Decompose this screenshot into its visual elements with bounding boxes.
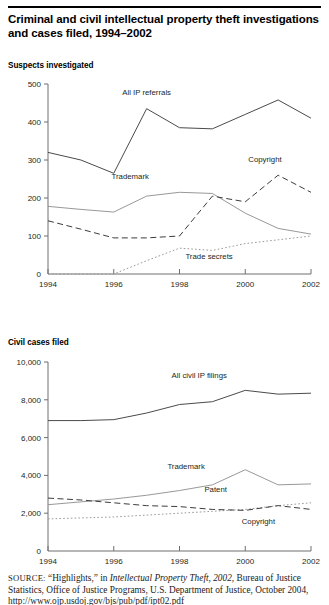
- x-tick-label: 2000: [236, 557, 254, 566]
- chart-canvas-civil-cases-filed: 02,0004,0006,0008,00010,0001994199619982…: [0, 350, 329, 572]
- y-tick-label: 200: [28, 194, 42, 203]
- series-label-copyright: Copyright: [248, 155, 282, 164]
- series-line-copyright: [48, 175, 311, 238]
- x-tick-label: 1998: [171, 557, 189, 566]
- chart-2-heading: Civil cases filed: [8, 338, 69, 347]
- chart-canvas-suspects-investigated: 010020030040050019941996199820002002All …: [0, 72, 329, 294]
- y-tick-label: 0: [37, 270, 42, 279]
- series-label-copyright: Copyright: [242, 517, 276, 526]
- figure-page: Criminal and civil intellectual property…: [0, 0, 329, 605]
- y-tick-label: 400: [28, 118, 42, 127]
- y-tick-label: 4,000: [21, 471, 42, 480]
- x-tick-label: 1998: [171, 280, 189, 289]
- series-label-all-ip-referrals: All IP referrals: [122, 88, 171, 97]
- x-tick-label: 1994: [39, 280, 57, 289]
- source-label: SOURCE:: [8, 573, 46, 583]
- series-label-trade-secrets: Trade secrets: [185, 252, 232, 261]
- series-label-trademark: Trademark: [111, 172, 149, 181]
- x-tick-label: 1994: [39, 557, 57, 566]
- y-tick-label: 2,000: [21, 509, 42, 518]
- series-label-patent: Patent: [204, 485, 227, 494]
- source-note: SOURCE: “Highlights,” in Intellectual Pr…: [8, 573, 322, 605]
- y-tick-label: 6,000: [21, 434, 42, 443]
- y-tick-label: 300: [28, 156, 42, 165]
- source-publication-title: Intellectual Property Theft, 2002: [110, 573, 232, 583]
- x-tick-label: 2002: [302, 557, 320, 566]
- chart-civil-cases-filed: 02,0004,0006,0008,00010,0001994199619982…: [0, 350, 329, 560]
- x-tick-label: 1996: [105, 280, 123, 289]
- series-line-trade-secrets: [48, 236, 311, 274]
- chart-suspects-investigated: 010020030040050019941996199820002002All …: [0, 72, 329, 282]
- y-tick-label: 100: [28, 232, 42, 241]
- source-text-1: “Highlights,” in: [46, 573, 110, 583]
- y-tick-label: 500: [28, 80, 42, 89]
- series-label-all-civil-ip-filings: All civil IP filings: [172, 371, 227, 380]
- title-divider: [8, 6, 321, 8]
- y-tick-label: 0: [37, 547, 42, 556]
- y-tick-label: 8,000: [21, 396, 42, 405]
- series-line-trademark: [48, 470, 311, 505]
- series-line-all-civil-ip-filings: [48, 390, 311, 420]
- series-label-trademark: Trademark: [167, 462, 205, 471]
- chart-1-heading: Suspects investigated: [8, 61, 93, 70]
- y-tick-label: 10,000: [17, 358, 42, 367]
- x-tick-label: 1996: [105, 557, 123, 566]
- x-tick-label: 2002: [302, 280, 320, 289]
- series-line-copyright: [48, 498, 311, 510]
- page-title: Criminal and civil intellectual property…: [8, 12, 320, 40]
- x-tick-label: 2000: [236, 280, 254, 289]
- series-line-trademark: [48, 192, 311, 234]
